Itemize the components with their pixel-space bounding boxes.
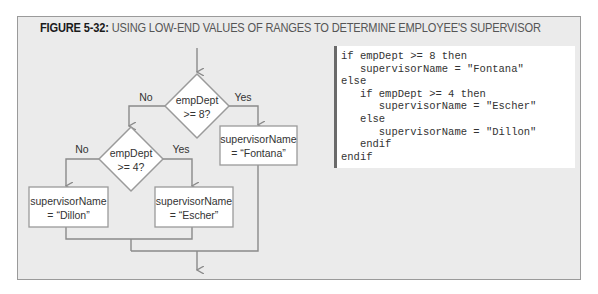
merge-inner [66,227,192,239]
svg-text:supervisorName: supervisorName [220,133,297,145]
pseudocode-line: supervisorName = "Fontana" [341,63,575,76]
d1-yes-label: Yes [234,91,251,103]
d2-no-label: No [75,143,89,155]
d1-no-label: No [139,91,153,103]
d1-no-connector [129,106,165,126]
pseudocode-line: if empDept >= 4 then [341,88,575,101]
pseudocode-line: supervisorName = "Dillon" [341,126,575,139]
svg-text:supervisorName: supervisorName [156,195,233,207]
d2-yes-connector [163,159,192,186]
svg-text:>= 8?: >= 8? [184,108,211,120]
pseudocode-box: if empDept >= 8 then supervisorName = "F… [334,46,575,168]
process-escher: supervisorName = “Escher” [155,187,233,227]
svg-text:= “Dillon”: = “Dillon” [47,209,90,221]
svg-text:>= 4?: >= 4? [118,161,145,173]
svg-text:empDept: empDept [176,94,219,106]
svg-text:= “Escher”: = “Escher” [170,209,219,221]
d2-yes-label: Yes [172,143,189,155]
process-dillon: supervisorName = “Dillon” [29,187,108,227]
pseudocode-line: endif [341,138,575,151]
svg-text:supervisorName: supervisorName [30,195,107,207]
d1-yes-connector [229,106,258,125]
d2-no-connector [66,159,99,186]
svg-text:= “Fontana”: = “Fontana” [231,147,286,159]
process-fontana: supervisorName = “Fontana” [220,126,297,165]
pseudocode-line: endif [341,151,575,164]
pseudocode-line: if empDept >= 8 then [341,50,575,63]
pseudocode-line: else [341,113,575,126]
pseudocode-line: supervisorName = "Escher" [341,100,575,113]
pseudocode-line: else [341,75,575,88]
svg-text:empDept: empDept [110,147,153,159]
decision-empdept-ge-4: empDept >= 4? [99,127,163,191]
